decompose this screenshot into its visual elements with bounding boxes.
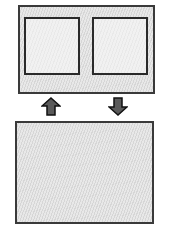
left-panel: [24, 17, 80, 75]
arrow-up-icon: [41, 97, 61, 116]
diagram-canvas: [0, 0, 173, 230]
bottom-container: [15, 121, 154, 224]
right-panel: [92, 17, 148, 75]
arrow-down-icon: [108, 97, 128, 116]
